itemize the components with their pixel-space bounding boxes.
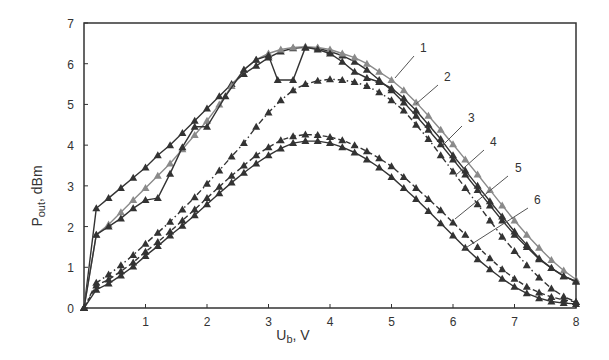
- y-tick-label: 3: [67, 180, 74, 194]
- triangle-marker: [523, 261, 531, 268]
- chart: 1234567801234567 123456 Ub, V Pout, dBm: [0, 0, 609, 360]
- triangle-marker: [437, 151, 445, 158]
- triangle-marker: [523, 283, 531, 290]
- x-tick-label: 3: [265, 315, 272, 329]
- x-tick-label: 2: [204, 315, 211, 329]
- triangle-marker: [252, 123, 260, 130]
- triangle-marker: [338, 58, 346, 65]
- series-group: [80, 43, 580, 311]
- series-line: [84, 79, 576, 308]
- y-axis-label: Pout, dBm: [29, 165, 47, 226]
- triangle-marker: [388, 76, 396, 83]
- y-tick-label: 2: [67, 221, 74, 235]
- triangle-marker: [277, 96, 285, 103]
- triangle-marker: [388, 162, 396, 169]
- curve-label-3: 3: [468, 111, 475, 125]
- x-tick-label: 5: [388, 315, 395, 329]
- leader-line: [455, 176, 508, 219]
- x-tick-label: 8: [573, 315, 580, 329]
- curve-label-5: 5: [515, 161, 522, 175]
- triangle-marker: [461, 184, 469, 191]
- y-tick-label: 5: [67, 98, 74, 112]
- triangle-marker: [289, 86, 297, 93]
- triangle-marker: [129, 251, 137, 258]
- curve-labels: 123456: [395, 41, 541, 249]
- axes: [84, 23, 576, 308]
- triangle-marker: [511, 275, 519, 282]
- leader-line: [416, 85, 438, 104]
- y-tick-label: 0: [67, 302, 74, 316]
- triangle-marker: [240, 139, 248, 146]
- curve-label-2: 2: [444, 70, 451, 84]
- triangle-marker: [486, 254, 494, 261]
- triangle-marker: [388, 96, 396, 103]
- triangle-marker: [252, 159, 260, 166]
- triangle-marker: [375, 154, 383, 161]
- triangle-marker: [326, 75, 334, 82]
- triangle-marker: [511, 247, 519, 254]
- triangle-marker: [498, 265, 506, 272]
- triangle-marker: [375, 164, 383, 171]
- triangle-marker: [363, 147, 371, 154]
- plot-frame: [84, 23, 576, 308]
- triangle-marker: [154, 194, 162, 201]
- y-tick-label: 4: [67, 139, 74, 153]
- triangle-marker: [265, 143, 273, 150]
- triangle-marker: [265, 151, 273, 158]
- leader-line: [395, 56, 414, 78]
- triangle-marker: [474, 243, 482, 250]
- y-tick-label: 7: [67, 17, 74, 31]
- curve-label-6: 6: [534, 193, 541, 207]
- curve-label-1: 1: [420, 41, 427, 55]
- triangle-marker: [523, 289, 531, 296]
- triangle-marker: [289, 132, 297, 139]
- triangle-marker: [375, 68, 383, 75]
- leader-line: [464, 208, 528, 249]
- triangle-marker: [166, 218, 174, 225]
- triangle-marker: [351, 141, 359, 148]
- y-tick-label: 6: [67, 58, 74, 72]
- triangle-marker: [363, 66, 371, 73]
- x-tick-label: 4: [327, 315, 334, 329]
- triangle-marker: [375, 88, 383, 95]
- triangle-marker: [117, 261, 125, 268]
- x-tick-label: 7: [511, 315, 518, 329]
- curve-label-4: 4: [490, 135, 497, 149]
- triangle-marker: [129, 204, 137, 211]
- triangle-marker: [363, 74, 371, 81]
- triangle-marker: [363, 155, 371, 162]
- tick-labels: 1234567801234567: [67, 17, 579, 329]
- triangle-marker: [486, 216, 494, 223]
- triangle-marker: [166, 170, 174, 177]
- y-tick-label: 1: [67, 261, 74, 275]
- triangle-marker: [511, 283, 519, 290]
- x-axis-label: Ub, V: [276, 327, 310, 345]
- x-tick-label: 6: [450, 315, 457, 329]
- series-4: [80, 75, 580, 311]
- triangle-marker: [363, 60, 371, 67]
- triangle-marker: [252, 151, 260, 158]
- x-tick-label: 1: [142, 315, 149, 329]
- triangle-marker: [412, 121, 420, 128]
